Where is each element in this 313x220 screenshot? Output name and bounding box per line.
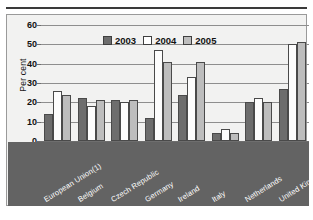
- bar-2005-netherlands: [263, 102, 272, 141]
- legend-item-2004: 2004: [143, 35, 176, 46]
- bar-2004-belgium: [87, 106, 96, 141]
- bar-2003-unitedkingdom: [279, 89, 288, 141]
- y-tick-label-50: 50: [27, 39, 37, 49]
- bar-2003-italy: [212, 133, 221, 141]
- y-tick-label-60: 60: [27, 20, 37, 30]
- x-axis-band-left: [8, 142, 41, 206]
- bar-2004-germany: [154, 50, 163, 141]
- bar-2004-unitedkingdom: [288, 44, 297, 141]
- x-tick-label: Germany: [143, 179, 175, 204]
- bar-2003-germany: [145, 118, 154, 141]
- legend-swatch-2004: [143, 36, 152, 45]
- x-tick-label: Italy: [210, 189, 227, 204]
- legend-item-2003: 2003: [103, 35, 136, 46]
- bar-2005-germany: [163, 62, 172, 141]
- legend-swatch-2005: [183, 36, 192, 45]
- chart-legend: 2003 2004 2005: [103, 35, 216, 46]
- legend-item-2005: 2005: [183, 35, 216, 46]
- x-tick-label: Netherlands: [243, 174, 283, 204]
- bar-2004-italy: [221, 129, 230, 141]
- legend-label-2005: 2005: [195, 35, 216, 46]
- x-tick-label: European Union(1): [42, 161, 103, 204]
- legend-swatch-2003: [103, 36, 112, 45]
- y-tick-label-30: 30: [27, 78, 37, 88]
- x-tick-label: Ireland: [176, 184, 201, 204]
- y-tick-label-10: 10: [27, 117, 37, 127]
- bar-2003-czechrepublic: [111, 100, 120, 141]
- bar-group: [41, 25, 75, 141]
- bar-2005-czechrepublic: [129, 100, 138, 141]
- bar-2005-ireland: [196, 62, 205, 141]
- x-tick-label: United Kingdom: [277, 167, 309, 204]
- bar-2004-ireland: [187, 77, 196, 141]
- bar-2003-europeanunion: [44, 114, 53, 141]
- bar-group: [276, 25, 310, 141]
- bar-2004-czechrepublic: [120, 102, 129, 141]
- bar-2005-belgium: [96, 100, 105, 141]
- bar-2003-netherlands: [245, 102, 254, 141]
- bar-2005-italy: [230, 133, 239, 141]
- y-axis-label: Per cent: [18, 45, 28, 105]
- bar-group: [242, 25, 276, 141]
- bar-2004-europeanunion: [53, 91, 62, 141]
- y-tick-label-20: 20: [27, 97, 37, 107]
- bar-2004-netherlands: [254, 98, 263, 141]
- top-rule: [6, 7, 307, 9]
- x-tick-label: Belgium: [76, 181, 105, 204]
- legend-label-2004: 2004: [155, 35, 176, 46]
- y-tick-label-40: 40: [27, 59, 37, 69]
- bar-2003-belgium: [78, 98, 87, 141]
- x-axis-band: European Union(1)BelgiumCzech RepublicGe…: [41, 142, 309, 206]
- bar-2005-europeanunion: [62, 95, 71, 141]
- legend-label-2003: 2003: [115, 35, 136, 46]
- bar-2005-unitedkingdom: [297, 42, 306, 141]
- bar-2003-ireland: [178, 95, 187, 141]
- plot-frame: Per cent 2003 2004 2005 0102030405060 Eu…: [6, 14, 307, 206]
- chart-figure: Per cent 2003 2004 2005 0102030405060 Eu…: [0, 0, 313, 220]
